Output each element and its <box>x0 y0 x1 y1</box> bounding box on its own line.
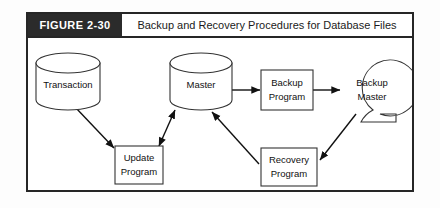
edge-recovery-program-to-master <box>212 112 259 164</box>
backup-program-label-line1: Backup <box>271 77 303 88</box>
backup-master-label-line2: Master <box>357 91 386 102</box>
figure-header: FIGURE 2-30 Backup and Recovery Procedur… <box>28 14 412 38</box>
node-transaction[interactable]: Transaction <box>36 53 100 110</box>
node-update-program[interactable]: Update Program <box>115 146 163 184</box>
master-cylinder-top <box>170 53 232 73</box>
update-program-label-line1: Update <box>124 152 155 163</box>
figure-title: Backup and Recovery Procedures for Datab… <box>122 14 412 36</box>
backup-master-label-line1: Backup <box>356 77 388 88</box>
edge-update-program-to-master <box>159 110 175 146</box>
edge-backup-master-to-recovery-program <box>320 114 356 160</box>
recovery-program-label-line1: Recovery <box>269 154 309 165</box>
master-label: Master <box>186 79 215 90</box>
node-backup-master[interactable]: Backup Master <box>356 60 412 122</box>
diagram-canvas: Transaction Master Update Program <box>28 38 412 190</box>
recovery-program-label-line2: Program <box>271 168 308 179</box>
backup-program-label-line2: Program <box>269 91 306 102</box>
figure-root: FIGURE 2-30 Backup and Recovery Procedur… <box>0 0 440 208</box>
update-program-label-line2: Program <box>121 166 158 177</box>
diagram-svg: Transaction Master Update Program <box>28 38 412 190</box>
transaction-label: Transaction <box>43 79 92 90</box>
transaction-cylinder-top <box>36 53 100 73</box>
node-recovery-program[interactable]: Recovery Program <box>261 148 317 186</box>
node-master[interactable]: Master <box>170 53 232 110</box>
figure-number-tag: FIGURE 2-30 <box>28 14 122 36</box>
figure-frame: FIGURE 2-30 Backup and Recovery Procedur… <box>26 12 414 192</box>
node-backup-program[interactable]: Backup Program <box>261 70 313 110</box>
edge-transaction-to-update-program <box>76 108 114 148</box>
